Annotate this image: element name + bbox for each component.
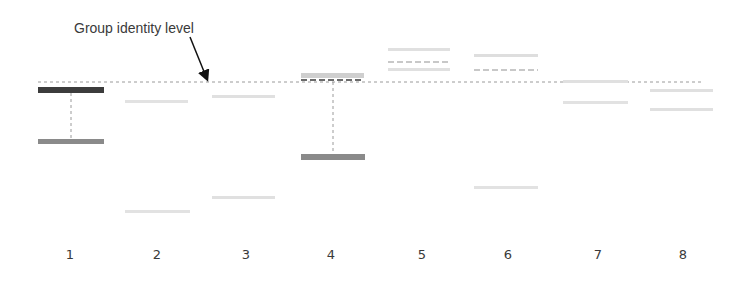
lane-label: 8: [673, 247, 693, 262]
lane-label: 3: [236, 247, 256, 262]
lane-label: 5: [412, 247, 432, 262]
lane-8-bar-1: [650, 89, 713, 92]
lane-6-bar-2: [474, 186, 538, 189]
lane-label: 2: [147, 247, 167, 262]
lane-7-bar-2: [563, 101, 628, 104]
lane-2-bar-2: [125, 210, 190, 213]
lane-5-bar-2: [388, 68, 450, 71]
diagram-lines: [0, 0, 749, 285]
lane-7-bar-1: [563, 80, 628, 83]
lane-5-bar-1: [388, 48, 450, 51]
lane-3-bar-1: [212, 95, 275, 98]
lane-1-bar-2: [38, 139, 104, 144]
annotation-label: Group identity level: [74, 20, 194, 36]
lane-4-bar-2: [301, 154, 365, 160]
annotation-arrow-icon: [190, 37, 207, 79]
lane-3-bar-2: [212, 196, 275, 199]
lane-label: 1: [60, 247, 80, 262]
lane-1-bar-1: [38, 87, 104, 93]
diagram-canvas: Group identity level 12345678: [0, 0, 749, 285]
lane-label: 6: [498, 247, 518, 262]
lane-8-bar-2: [650, 108, 713, 111]
lane-2-bar-1: [125, 100, 188, 103]
lane-4-bar-1: [301, 73, 364, 78]
lane-6-bar-1: [474, 54, 538, 57]
lane-label: 4: [321, 247, 341, 262]
lane-label: 7: [588, 247, 608, 262]
